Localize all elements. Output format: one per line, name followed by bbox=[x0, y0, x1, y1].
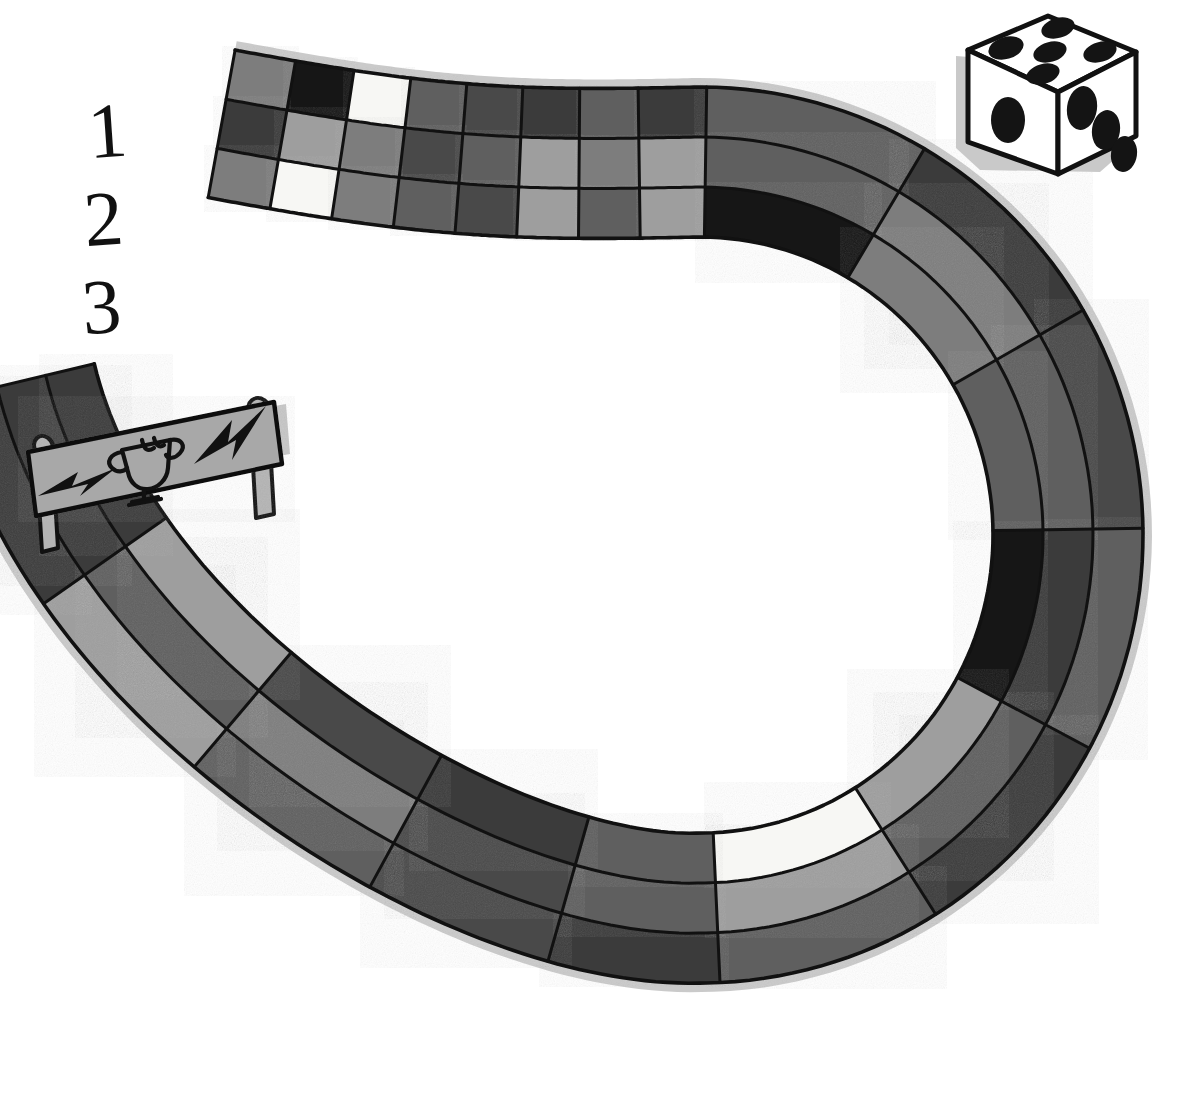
track-cell-lane2-8 bbox=[639, 137, 706, 188]
track-cell-lane1-4 bbox=[405, 78, 467, 133]
track-cell-lane3-7 bbox=[579, 188, 641, 238]
track-cell-lane1-6 bbox=[521, 87, 580, 138]
lane-number-1: 1 bbox=[85, 91, 127, 171]
lane-number-group: 1 2 3 bbox=[80, 92, 160, 362]
die-left-pips bbox=[991, 97, 1025, 143]
lane-number-3: 3 bbox=[79, 267, 121, 347]
track-cell-lane3-4 bbox=[393, 178, 459, 234]
cell-divider-6 bbox=[579, 88, 580, 238]
track-cell-lane1-7 bbox=[579, 88, 639, 138]
six-sided-die bbox=[940, 8, 1155, 183]
illustration-canvas: 1 2 3 bbox=[0, 0, 1196, 1111]
track-cell-lane3-3 bbox=[332, 169, 400, 227]
track-cell-lane1-5 bbox=[463, 84, 523, 137]
track-cell-lane2-5 bbox=[459, 134, 521, 187]
track-cell-lane2-3 bbox=[339, 120, 405, 178]
track-cell-lane2-4 bbox=[399, 128, 463, 184]
track-cell-lane2-7 bbox=[579, 138, 640, 188]
track-cell-lane1-3 bbox=[347, 70, 411, 127]
cell-divider-7 bbox=[638, 88, 640, 238]
finish-line-sign bbox=[18, 392, 313, 582]
track-cell-lane3-6 bbox=[517, 187, 579, 238]
track-cell-lane1-8 bbox=[638, 87, 707, 138]
lane-number-2: 2 bbox=[81, 179, 123, 259]
track-cell-lane2-6 bbox=[519, 137, 580, 188]
track-cell-lane3-8 bbox=[640, 187, 706, 238]
die-container bbox=[940, 8, 1155, 183]
track-cell-lane3-5 bbox=[455, 183, 519, 237]
sign-graphic bbox=[18, 392, 313, 582]
